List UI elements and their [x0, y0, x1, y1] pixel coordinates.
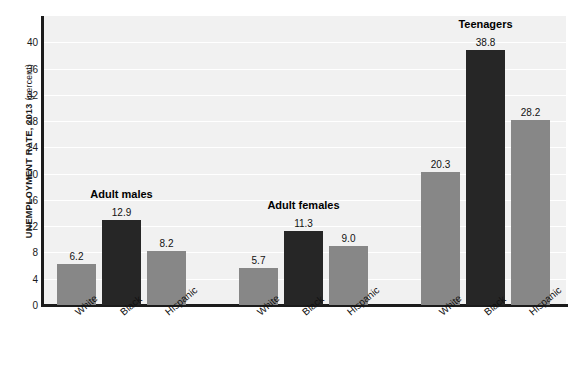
bar-value-label: 12.9: [112, 207, 131, 218]
y-axis-line: [41, 16, 44, 307]
bar-value-label: 28.2: [521, 107, 540, 118]
group-title: Adult females: [267, 199, 339, 211]
y-tick-label: 20: [4, 168, 38, 179]
bar[interactable]: 20.3: [421, 172, 460, 305]
bar-value-label: 38.8: [476, 37, 495, 48]
group-title: Adult males: [90, 188, 152, 200]
y-tick-label: 16: [4, 194, 38, 205]
group-title: Teenagers: [458, 18, 512, 30]
y-tick-label: 24: [4, 142, 38, 153]
bar-value-label: 9.0: [342, 233, 356, 244]
bar-value-label: 6.2: [70, 251, 84, 262]
y-tick-label: 4: [4, 273, 38, 284]
y-tick-label: 8: [4, 247, 38, 258]
bar-value-label: 8.2: [160, 238, 174, 249]
y-tick-label: 12: [4, 221, 38, 232]
y-tick-label: 32: [4, 89, 38, 100]
bar[interactable]: 12.9: [102, 220, 141, 305]
y-tick-label: 28: [4, 116, 38, 127]
bar-value-label: 11.3: [294, 218, 313, 229]
bar-value-label: 5.7: [252, 255, 266, 266]
bar[interactable]: 28.2: [511, 120, 550, 305]
y-tick-label: 36: [4, 63, 38, 74]
bar[interactable]: 38.8: [466, 50, 505, 305]
bar-value-label: 20.3: [431, 159, 450, 170]
y-tick-label: 40: [4, 37, 38, 48]
unemployment-bar-chart: UNEMPLOYMENT RATE, 2013 (percent) 048121…: [0, 0, 585, 365]
y-tick-label: 0: [4, 300, 38, 311]
y-axis-tick-labels: 0481216202428323640: [0, 0, 38, 365]
